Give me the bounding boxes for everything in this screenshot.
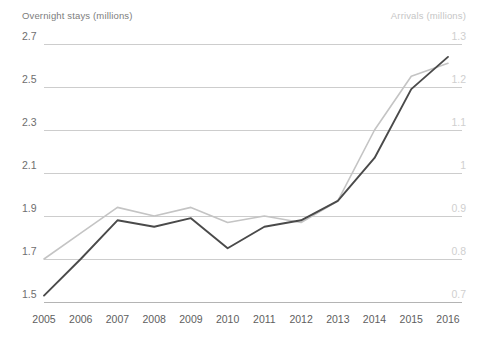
x-axis-tick: 2010 [216,314,239,325]
left-axis-tick: 2.3 [22,117,37,128]
plot-area [0,0,488,340]
gridlines [44,45,462,303]
x-axis-tick: 2015 [400,314,423,325]
x-axis-tick: 2005 [32,314,55,325]
x-axis-tick: 2011 [253,314,276,325]
x-axis-tick: 2012 [289,314,312,325]
right-axis-tick: 1.1 [451,117,466,128]
left-axis-tick: 2.5 [22,74,37,85]
x-axis-tick: 2013 [326,314,349,325]
right-axis-tick: 1 [460,160,466,171]
right-axis-tick: 1.3 [451,31,466,42]
right-axis-tick: 0.7 [451,289,466,300]
left-axis-tick: 1.9 [22,203,37,214]
x-axis-tick: 2007 [106,314,129,325]
dual-axis-line-chart: Overnight stays (millions) Arrivals (mil… [0,0,488,340]
left-axis-tick: 2.1 [22,160,37,171]
right-axis-tick: 0.9 [451,203,466,214]
left-axis-tick: 1.7 [22,246,37,257]
x-axis-tick: 2016 [436,314,459,325]
series-line-arrivals [44,63,448,259]
x-axis-tick: 2008 [142,314,165,325]
x-axis-tick: 2009 [179,314,202,325]
right-axis-tick: 0.8 [451,246,466,257]
left-axis-tick: 2.7 [22,31,37,42]
right-axis-tick: 1.2 [451,74,466,85]
x-axis-tick: 2014 [363,314,386,325]
left-axis-tick: 1.5 [22,289,37,300]
x-axis-tick: 2006 [69,314,92,325]
